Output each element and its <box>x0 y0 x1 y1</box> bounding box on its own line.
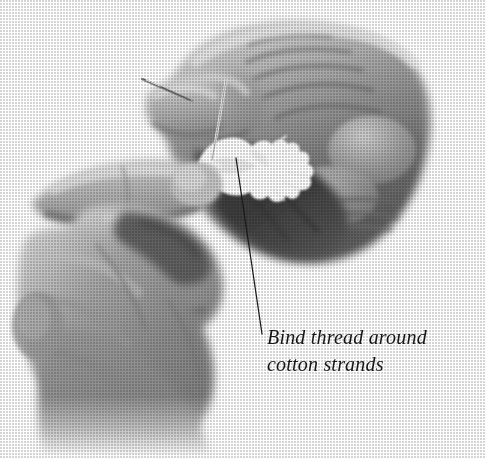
caption-line-2: cotton strands <box>267 353 384 376</box>
photograph-area <box>0 0 486 458</box>
bottom-edge-fade <box>0 396 486 458</box>
illustration-figure: Bind thread around cotton strands <box>0 0 486 458</box>
photo-shapes <box>0 0 486 458</box>
left-hand-edge-knuckle <box>12 292 64 360</box>
right-edge-fade <box>418 0 486 458</box>
caption-line-1: Bind thread around <box>267 326 427 349</box>
left-hand-fingertip <box>170 162 222 206</box>
